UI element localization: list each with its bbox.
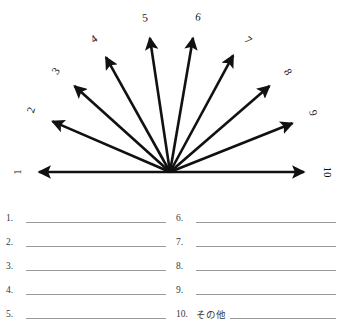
answer-column-right: 6.7.8.9.10.その他 — [176, 196, 341, 332]
ray-label-6: 6 — [194, 11, 201, 23]
answer-row[interactable]: 5. — [6, 308, 166, 320]
answer-row[interactable]: 2. — [6, 236, 166, 248]
answer-number: 10. — [176, 309, 196, 320]
ray-group — [39, 38, 304, 172]
answer-blank-line[interactable] — [26, 222, 166, 223]
fan-diagram: 12345678910 — [0, 0, 341, 196]
answer-number: 2. — [6, 237, 26, 248]
answer-column-left: 1.2.3.4.5. — [6, 196, 172, 332]
answer-number: 8. — [176, 261, 196, 272]
answer-row[interactable]: 3. — [6, 260, 166, 272]
ray-label-5: 5 — [142, 12, 149, 24]
ray-arrow-3 — [74, 86, 170, 172]
answer-number: 7. — [176, 237, 196, 248]
ray-arrow-8 — [170, 86, 269, 172]
fan-diagram-svg — [0, 0, 341, 196]
answer-number: 6. — [176, 213, 196, 224]
answer-blank-line[interactable] — [196, 246, 336, 247]
answer-blank-line[interactable] — [196, 294, 336, 295]
answer-row[interactable]: 9. — [176, 284, 336, 296]
answer-prefix-label: その他 — [196, 309, 230, 320]
answer-row[interactable]: 6. — [176, 212, 336, 224]
answer-blank-line[interactable] — [196, 222, 336, 223]
ray-arrow-9 — [170, 123, 292, 172]
worksheet-page: 12345678910 1.2.3.4.5. 6.7.8.9.10.その他 — [0, 0, 341, 332]
ray-label-10: 10 — [322, 167, 333, 178]
answer-blank-line[interactable] — [26, 270, 166, 271]
answer-number: 9. — [176, 285, 196, 296]
answer-blank-line[interactable] — [26, 246, 166, 247]
answer-row[interactable]: 10.その他 — [176, 308, 336, 320]
answer-blank-line[interactable] — [26, 318, 166, 319]
ray-arrow-2 — [53, 121, 170, 172]
answer-row[interactable]: 7. — [176, 236, 336, 248]
answer-number: 1. — [6, 213, 26, 224]
answer-row[interactable]: 4. — [6, 284, 166, 296]
answer-blank-line[interactable] — [26, 294, 166, 295]
answer-blank-line[interactable] — [230, 318, 336, 319]
answer-row[interactable]: 8. — [176, 260, 336, 272]
ray-label-1: 1 — [12, 169, 23, 175]
answer-blank-line[interactable] — [196, 270, 336, 271]
answer-number: 3. — [6, 261, 26, 272]
answer-row[interactable]: 1. — [6, 212, 166, 224]
answer-number: 4. — [6, 285, 26, 296]
answer-number: 5. — [6, 309, 26, 320]
answer-lines-section: 1.2.3.4.5. 6.7.8.9.10.その他 — [0, 196, 341, 332]
